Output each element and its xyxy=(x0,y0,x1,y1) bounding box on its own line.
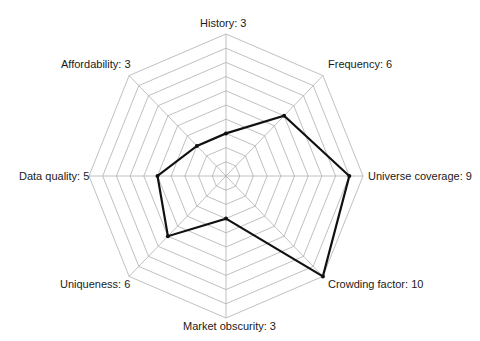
data-point xyxy=(282,114,286,118)
data-point xyxy=(224,217,228,221)
data-point xyxy=(195,144,199,148)
axis-label-affordability: Affordability: 3 xyxy=(61,58,131,71)
axis-label-uniqueness: Uniqueness: 6 xyxy=(60,278,130,291)
axis-label-frequency: Frequency: 6 xyxy=(328,58,392,71)
data-polygon xyxy=(158,116,350,277)
axis-label-history: History: 3 xyxy=(200,17,246,30)
data-point xyxy=(347,174,351,178)
data-point xyxy=(166,234,170,238)
axis-label-universe-coverage: Universe coverage: 9 xyxy=(368,170,472,183)
axis-label-market-obscurity: Market obscurity: 3 xyxy=(183,320,276,333)
data-point xyxy=(224,131,228,135)
data-point xyxy=(156,174,160,178)
axis-label-data-quality: Data quality: 5 xyxy=(19,170,89,183)
axis-label-crowding-factor: Crowding factor: 10 xyxy=(328,278,423,291)
data-point xyxy=(321,274,325,278)
data-points xyxy=(156,114,352,279)
